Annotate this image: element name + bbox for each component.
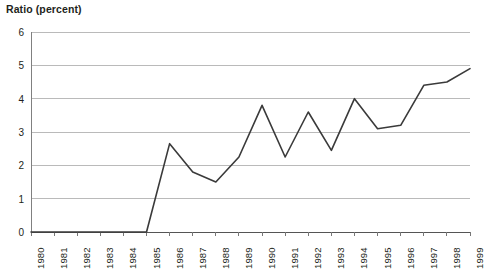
x-axis-tick-label: 1980 — [35, 247, 46, 269]
x-axis-tick-label: 1981 — [58, 247, 69, 269]
x-axis-tick-label: 1987 — [197, 247, 208, 269]
x-axis-tick-label: 1996 — [405, 247, 416, 269]
x-axis-tick-label: 1991 — [289, 247, 300, 269]
y-axis-tick-label: 6 — [2, 27, 24, 38]
x-axis-tick-label: 1984 — [127, 247, 138, 269]
x-axis-tick-label: 1999 — [474, 247, 485, 269]
y-axis-tick-label: 2 — [2, 160, 24, 171]
y-axis-tick-label: 1 — [2, 193, 24, 204]
x-axis-tick-label: 1986 — [174, 247, 185, 269]
x-axis-tick-label: 1983 — [104, 247, 115, 269]
x-axis-tick-label: 1985 — [151, 247, 162, 269]
y-axis-tick-label: 3 — [2, 127, 24, 138]
series-polyline — [31, 69, 470, 232]
y-axis-tick-label: 4 — [2, 93, 24, 104]
data-series-line — [31, 69, 470, 232]
x-axis-tick-label: 1994 — [358, 247, 369, 269]
x-axis-tick-label: 1982 — [81, 247, 92, 269]
x-axis-tick-label: 1988 — [220, 247, 231, 269]
y-axis-tick-label: 0 — [2, 227, 24, 238]
x-axis-tick-label: 1989 — [243, 247, 254, 269]
x-axis-tick-label: 1992 — [312, 247, 323, 269]
x-axis-tick-label: 1997 — [428, 247, 439, 269]
x-axis-tick-label: 1995 — [382, 247, 393, 269]
x-axis-tick-label: 1998 — [451, 247, 462, 269]
x-axis-tick-label: 1990 — [266, 247, 277, 269]
y-axis-tick-label: 5 — [2, 60, 24, 71]
x-axis-tick-label: 1993 — [335, 247, 346, 269]
